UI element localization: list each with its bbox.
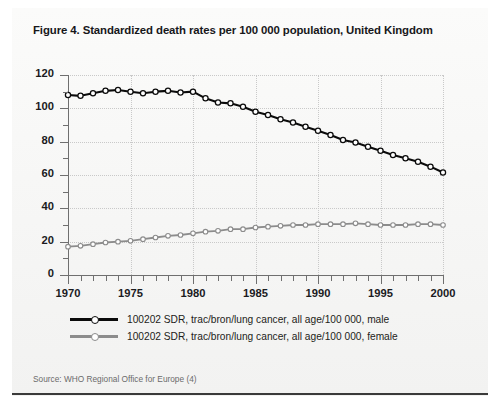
data-point-marker: [378, 148, 383, 153]
legend-item-female: 100202 SDR, trac/bron/lung cancer, all a…: [70, 328, 470, 345]
y-axis-label: 60: [4, 167, 54, 179]
data-point-marker: [128, 239, 133, 244]
y-axis-tick-minor: [63, 158, 68, 159]
data-point-marker: [291, 223, 296, 228]
x-axis-tick-minor: [356, 276, 357, 281]
data-point-marker: [228, 101, 233, 106]
x-axis-label: 1970: [41, 287, 95, 299]
data-point-marker: [328, 132, 333, 137]
data-point-marker: [353, 140, 358, 145]
x-axis-tick-major: [381, 276, 382, 284]
data-point-marker: [265, 112, 270, 117]
x-axis-tick-major: [443, 276, 444, 284]
x-axis-tick-minor: [206, 276, 207, 281]
data-point-marker: [228, 227, 233, 232]
data-point-marker: [266, 224, 271, 229]
data-point-marker: [341, 222, 346, 227]
x-axis-label: 2000: [416, 287, 470, 299]
x-axis-tick-minor: [231, 276, 232, 281]
data-point-marker: [316, 222, 321, 227]
data-point-marker: [441, 223, 446, 228]
data-point-marker: [103, 240, 108, 245]
x-axis-tick-major: [318, 276, 319, 284]
data-point-marker: [141, 237, 146, 242]
series-male: [65, 87, 445, 175]
x-axis-tick-minor: [118, 276, 119, 281]
x-axis-tick-minor: [431, 276, 432, 281]
x-axis-tick-major: [193, 276, 194, 284]
x-axis-tick-major: [256, 276, 257, 284]
data-point-marker: [65, 92, 70, 97]
y-axis-label: 0: [4, 267, 54, 279]
y-axis-tick-major: [60, 242, 68, 243]
x-axis-tick-minor: [406, 276, 407, 281]
x-axis-tick-major: [131, 276, 132, 284]
data-point-marker: [178, 233, 183, 238]
data-point-marker: [66, 244, 71, 249]
y-axis-tick-major: [60, 75, 68, 76]
y-axis-tick-minor: [63, 258, 68, 259]
x-axis-tick-minor: [368, 276, 369, 281]
data-point-marker: [216, 229, 221, 234]
data-point-marker: [153, 89, 158, 94]
data-point-marker: [241, 227, 246, 232]
x-axis-label: 1980: [166, 287, 220, 299]
data-point-marker: [378, 223, 383, 228]
x-axis-tick-minor: [331, 276, 332, 281]
y-axis-label: 20: [4, 234, 54, 246]
data-point-marker: [178, 90, 183, 95]
legend-swatch-male-icon: [70, 314, 118, 326]
x-axis-tick-minor: [243, 276, 244, 281]
x-axis-tick-minor: [218, 276, 219, 281]
x-axis-tick-minor: [143, 276, 144, 281]
legend-item-male: 100202 SDR, trac/bron/lung cancer, all a…: [70, 311, 470, 328]
figure-page: Figure 4. Standardized death rates per 1…: [0, 0, 500, 419]
data-point-marker: [366, 222, 371, 227]
x-axis-tick-minor: [93, 276, 94, 281]
x-axis-label: 1975: [104, 287, 158, 299]
x-axis-tick-minor: [168, 276, 169, 281]
data-point-marker: [165, 88, 170, 93]
data-point-marker: [191, 231, 196, 236]
legend-label-male: 100202 SDR, trac/bron/lung cancer, all a…: [127, 314, 389, 325]
y-axis-label: 80: [4, 134, 54, 146]
series-female: [66, 221, 446, 249]
data-point-marker: [115, 87, 120, 92]
data-point-marker: [253, 225, 258, 230]
y-axis-tick-minor: [63, 225, 68, 226]
data-point-marker: [166, 234, 171, 239]
series-line: [68, 90, 443, 173]
data-point-marker: [303, 223, 308, 228]
data-point-marker: [340, 137, 345, 142]
data-point-marker: [215, 100, 220, 105]
y-axis-tick-minor: [63, 192, 68, 193]
series-layer: [0, 0, 500, 419]
x-axis-tick-minor: [293, 276, 294, 281]
data-point-marker: [303, 124, 308, 129]
data-point-marker: [365, 144, 370, 149]
data-point-marker: [190, 89, 195, 94]
data-point-marker: [253, 109, 258, 114]
y-axis-label: 100: [4, 100, 54, 112]
data-point-marker: [78, 93, 83, 98]
data-point-marker: [428, 222, 433, 227]
data-point-marker: [353, 221, 358, 226]
data-point-marker: [103, 88, 108, 93]
data-point-marker: [153, 235, 158, 240]
data-point-marker: [428, 164, 433, 169]
data-point-marker: [116, 239, 121, 244]
y-axis-tick-major: [60, 275, 68, 276]
data-point-marker: [78, 244, 83, 249]
data-point-marker: [315, 128, 320, 133]
data-point-marker: [440, 170, 445, 175]
y-axis-tick-major: [60, 208, 68, 209]
x-axis-label: 1985: [229, 287, 283, 299]
y-axis-label: 120: [4, 67, 54, 79]
legend-label-female: 100202 SDR, trac/bron/lung cancer, all a…: [127, 331, 398, 342]
x-axis-tick-minor: [343, 276, 344, 281]
chart-plot: 0204060801001201970197519801985199019952…: [0, 0, 500, 419]
x-axis-tick-minor: [81, 276, 82, 281]
legend-swatch-female-icon: [70, 331, 118, 343]
data-point-marker: [203, 229, 208, 234]
data-point-marker: [240, 104, 245, 109]
